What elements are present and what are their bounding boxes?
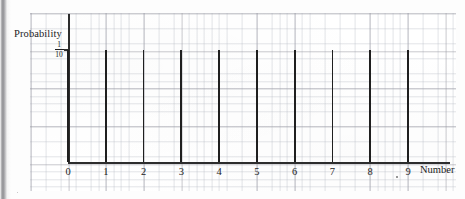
x-tick-label: 9 bbox=[400, 166, 416, 178]
graph-paper-grid bbox=[30, 13, 456, 191]
bar bbox=[294, 50, 296, 162]
bar bbox=[407, 50, 409, 162]
bar bbox=[143, 50, 145, 162]
bar bbox=[369, 50, 371, 162]
fraction-numerator: 1 bbox=[52, 41, 66, 49]
scanned-page-edge bbox=[0, 0, 7, 199]
x-tick-label: 3 bbox=[173, 166, 189, 178]
x-tick-label: 6 bbox=[287, 166, 303, 178]
bar bbox=[67, 50, 69, 162]
scanned-page-edge-fade bbox=[7, 0, 11, 199]
x-tick-label: 0 bbox=[60, 166, 76, 178]
scan-speck bbox=[396, 176, 398, 178]
bar bbox=[218, 50, 220, 162]
bar bbox=[105, 50, 107, 162]
x-tick-label: 8 bbox=[362, 166, 378, 178]
x-axis-line bbox=[68, 162, 450, 164]
x-axis-title: Number bbox=[420, 164, 454, 175]
x-tick-label: 7 bbox=[324, 166, 340, 178]
bar bbox=[180, 50, 182, 162]
x-tick-label: 2 bbox=[136, 166, 152, 178]
bar bbox=[256, 50, 258, 162]
bar bbox=[332, 50, 334, 162]
x-tick-label: 5 bbox=[249, 166, 265, 178]
x-tick-label: 1 bbox=[98, 166, 114, 178]
fraction-denominator: 10 bbox=[52, 51, 66, 59]
scan-speck-secondary bbox=[17, 192, 18, 193]
y-axis-title: Probability bbox=[14, 28, 62, 39]
probability-bar-chart: Probability 1 10 0123456789 Number bbox=[0, 0, 465, 199]
x-tick-label: 4 bbox=[211, 166, 227, 178]
